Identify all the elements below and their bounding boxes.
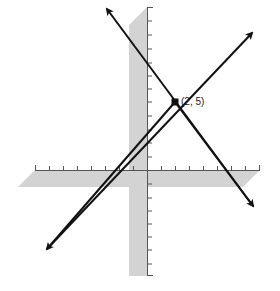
x-axis-shadow: [18, 170, 260, 187]
y-axis-shadow: [129, 7, 147, 276]
coordinate-plane: [0, 0, 280, 291]
intersection-label: (2, 5): [181, 96, 204, 108]
intersection-point: [172, 99, 179, 106]
decreasing-line-lower-arrow: [175, 102, 253, 206]
